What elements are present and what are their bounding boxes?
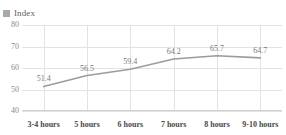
x-axis-baseline: [22, 110, 282, 111]
y-axis-tick-80: 80: [0, 21, 19, 29]
x-axis-tick-5: 9-10 hours: [242, 120, 278, 130]
chart-legend: Index: [3, 8, 35, 18]
x-axis-labels: 3-4 hours5 hours6 hours7 hours8 hours9-1…: [22, 120, 282, 134]
data-label-5: 64.7: [253, 47, 267, 55]
x-axis-tick-2: 6 hours: [118, 120, 144, 130]
plot-area: [22, 25, 282, 111]
y-axis-tick-70: 70: [0, 43, 19, 51]
gridline-h-40: [22, 111, 282, 112]
data-label-4: 65.7: [210, 45, 224, 53]
y-axis-tick-50: 50: [0, 86, 19, 94]
x-axis-tick-3: 7 hours: [161, 120, 187, 130]
chart-container: Index 8070605040 3-4 hours5 hours6 hours…: [0, 0, 286, 135]
series-line-index: [22, 25, 282, 111]
data-label-3: 64.2: [167, 48, 181, 56]
data-label-2: 59.4: [123, 58, 137, 66]
x-axis-tick-1: 5 hours: [74, 120, 100, 130]
data-label-1: 56.5: [80, 65, 94, 73]
data-label-0: 51.4: [37, 75, 51, 83]
x-axis-tick-4: 8 hours: [204, 120, 230, 130]
legend-swatch-index: [3, 10, 10, 17]
title-remnant: [0, 0, 286, 5]
legend-label-index: Index: [14, 8, 35, 18]
y-axis-tick-40: 40: [0, 107, 19, 115]
y-axis-tick-60: 60: [0, 64, 19, 72]
x-axis-tick-0: 3-4 hours: [28, 120, 60, 130]
